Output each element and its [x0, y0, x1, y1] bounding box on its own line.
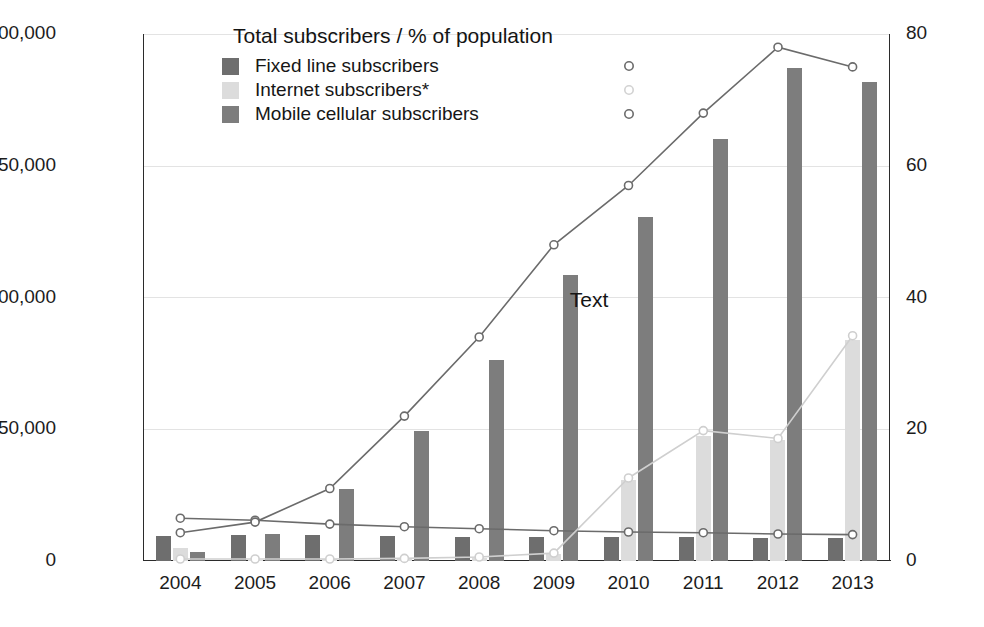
- legend-swatch-mobile-icon: [222, 106, 239, 123]
- x-tick-2006: 2006: [290, 572, 370, 594]
- legend-item-mobile-cellular-subscribers[interactable]: Mobile cellular subscribers: [222, 102, 642, 126]
- bar-mobile-2011: [713, 139, 728, 561]
- chart-root: 600,000 450,000 300,000 150,000 0 80 60 …: [0, 0, 984, 627]
- bar-fixed-2006: [305, 535, 320, 561]
- x-tick-2005: 2005: [215, 572, 295, 594]
- bar-mobile-2007: [414, 431, 429, 561]
- bar-internet-2013: [845, 340, 860, 561]
- y-tick-left-2: 300,000: [0, 286, 56, 308]
- y-tick-left-4: 600,000: [0, 22, 56, 44]
- bar-internet-2005: [248, 560, 263, 561]
- bar-internet-2011: [696, 436, 711, 561]
- x-tick-2009: 2009: [514, 572, 594, 594]
- bar-mobile-2004: [190, 552, 205, 561]
- bar-fixed-2010: [604, 537, 619, 561]
- bar-internet-2012: [770, 440, 785, 561]
- legend-label-internet: Internet subscribers*: [255, 79, 616, 101]
- bar-mobile-2010: [638, 217, 653, 561]
- y-tick-right-2: 40: [906, 286, 927, 308]
- y-tick-left-3: 450,000: [0, 154, 56, 176]
- bar-fixed-2013: [828, 538, 843, 561]
- legend-title: Total subscribers / % of population: [233, 24, 642, 48]
- bar-internet-2010: [621, 480, 636, 561]
- x-tick-2011: 2011: [663, 572, 743, 594]
- y-tick-left-1: 150,000: [0, 417, 56, 439]
- bar-internet-2004: [173, 548, 188, 561]
- bar-mobile-2006: [339, 489, 354, 561]
- bar-fixed-2008: [455, 537, 470, 561]
- x-tick-2007: 2007: [364, 572, 444, 594]
- bar-internet-2008: [472, 558, 487, 561]
- bar-mobile-2008: [489, 360, 504, 561]
- x-tick-2008: 2008: [439, 572, 519, 594]
- chart-annotation-text: Text: [570, 288, 609, 312]
- bar-mobile-2012: [787, 68, 802, 561]
- legend-label-mobile: Mobile cellular subscribers: [255, 103, 616, 125]
- bar-fixed-2009: [529, 537, 544, 561]
- bar-fixed-2007: [380, 536, 395, 561]
- bar-mobile-2005: [265, 534, 280, 561]
- y-tick-left-0: 0: [45, 549, 56, 571]
- bar-internet-2007: [397, 559, 412, 561]
- bar-fixed-2004: [156, 536, 171, 561]
- legend-swatch-fixed-icon: [222, 58, 239, 75]
- legend-label-fixed: Fixed line subscribers: [255, 55, 616, 77]
- legend-marker-circle-fixed-icon: [616, 59, 642, 73]
- x-tick-2004: 2004: [140, 572, 220, 594]
- y-tick-right-1: 20: [906, 417, 927, 439]
- bar-fixed-2005: [231, 535, 246, 561]
- legend-marker-circle-mobile-icon: [616, 107, 642, 121]
- legend-swatch-internet-icon: [222, 82, 239, 99]
- x-tick-2013: 2013: [813, 572, 893, 594]
- x-tick-2012: 2012: [738, 572, 818, 594]
- chart-legend: Total subscribers / % of population Fixe…: [222, 24, 642, 126]
- bar-mobile-2009: [563, 275, 578, 561]
- y-tick-right-4: 80: [906, 22, 927, 44]
- y-tick-right-3: 60: [906, 154, 927, 176]
- x-tick-2010: 2010: [589, 572, 669, 594]
- bar-fixed-2011: [679, 537, 694, 561]
- bar-internet-2009: [546, 554, 561, 561]
- bar-mobile-2013: [862, 82, 877, 561]
- bar-internet-2006: [322, 559, 337, 561]
- legend-marker-circle-internet-icon: [616, 83, 642, 97]
- bar-fixed-2012: [753, 538, 768, 561]
- y-tick-right-0: 0: [906, 549, 917, 571]
- legend-item-internet-subscribers[interactable]: Internet subscribers*: [222, 78, 642, 102]
- legend-item-fixed-line-subscribers[interactable]: Fixed line subscribers: [222, 54, 642, 78]
